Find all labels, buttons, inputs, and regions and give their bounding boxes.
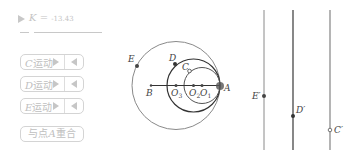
point-o3 [175,84,178,87]
point-o1 [201,84,204,87]
point-a[interactable] [216,82,224,90]
label-o1: O1 [200,88,211,99]
geometry-canvas: E D C B A O3 O2 O1 E′ D′ C′ [0,0,355,158]
point-d-prime[interactable] [291,114,295,118]
label-a: A [223,83,231,93]
label-o2: O2 [189,88,200,99]
point-e[interactable] [135,64,139,68]
label-b: B [145,88,153,98]
point-c-prime[interactable] [328,128,332,132]
label-o3: O3 [171,88,182,99]
label-e-prime: E′ [251,91,261,101]
label-e: E [127,54,135,64]
label-d: D [168,53,176,63]
point-b[interactable] [150,84,152,86]
label-c: C [182,62,189,72]
point-o2 [192,84,195,87]
label-c-prime: C′ [334,125,343,135]
label-d-prime: D′ [295,105,305,115]
point-e-prime[interactable] [262,94,266,98]
